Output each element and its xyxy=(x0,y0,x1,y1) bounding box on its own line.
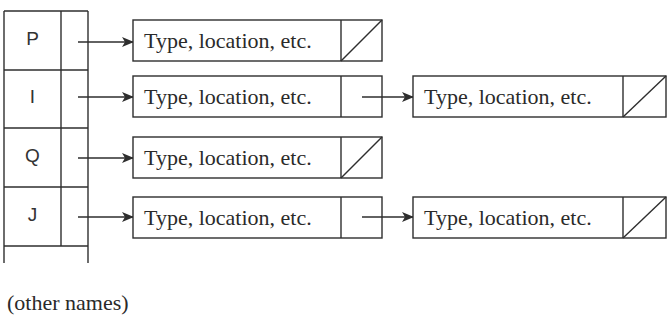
symbol-name-q: Q xyxy=(4,145,61,167)
diagram-canvas xyxy=(0,0,672,324)
symbol-name-i: I xyxy=(4,86,61,108)
entry-label: Type, location, etc. xyxy=(144,76,312,117)
entry-label: Type, location, etc. xyxy=(144,137,312,178)
entry-label: Type, location, etc. xyxy=(144,197,312,238)
entry-label: Type, location, etc. xyxy=(424,197,592,238)
entry-label: Type, location, etc. xyxy=(424,76,592,117)
symbol-name-j: J xyxy=(4,204,61,226)
symbol-name-p: P xyxy=(4,28,61,50)
entry-label: Type, location, etc. xyxy=(144,20,312,61)
other-names-label: (other names) xyxy=(7,290,129,316)
